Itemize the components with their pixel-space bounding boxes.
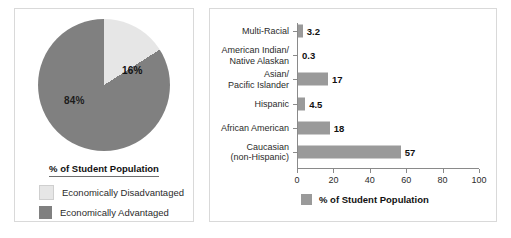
figure-root: 16% 84% % of Student Population Economic…	[0, 0, 511, 238]
pie-chart-title: % of Student Population	[15, 163, 193, 177]
bar-segment	[297, 121, 330, 134]
x-axis-tick-label: 40	[365, 175, 375, 185]
bar-value-label: 4.5	[309, 98, 322, 109]
bar-category-label: African American	[221, 123, 289, 134]
legend-swatch-icon	[39, 206, 52, 219]
bar-value-label: 18	[334, 122, 345, 133]
bar-value-label: 0.3	[302, 50, 315, 61]
x-axis-tick-label: 0	[294, 175, 299, 185]
bar-legend: % of Student Population	[301, 194, 429, 205]
x-axis-tick-icon	[479, 169, 480, 173]
x-axis-tick-icon	[443, 169, 444, 173]
x-axis-line	[297, 168, 479, 169]
bar-chart-panel: Multi-Racial3.2American Indian/Native Al…	[209, 8, 497, 222]
bar-category-label: Multi-Racial	[242, 26, 289, 37]
legend-label-disadvantaged: Economically Disadvantaged	[62, 187, 184, 198]
bar-segment	[297, 97, 305, 110]
x-axis-tick-label: 80	[438, 175, 448, 185]
x-axis-tick-label: 60	[401, 175, 411, 185]
y-axis-line	[297, 23, 298, 168]
bar-category-label: Hispanic	[254, 98, 289, 109]
bar-chart: Multi-Racial3.2American Indian/Native Al…	[210, 9, 496, 221]
legend-item-advantaged: Economically Advantaged	[39, 206, 183, 219]
bar-value-label: 57	[405, 146, 416, 157]
x-axis-tick-icon	[406, 169, 407, 173]
legend-swatch-icon	[301, 194, 312, 205]
x-axis-tick-label: 100	[471, 175, 486, 185]
bar-value-label: 3.2	[307, 26, 320, 37]
bar-segment	[297, 73, 328, 86]
legend-swatch-icon	[39, 185, 54, 200]
pie-slice-label-disadvantaged: 16%	[122, 65, 143, 76]
pie-chart: 16% 84%	[38, 19, 170, 151]
pie-chart-panel: 16% 84% % of Student Population Economic…	[14, 8, 194, 222]
bar-category-label: Caucasian(non-Hispanic)	[230, 141, 289, 162]
bar-value-label: 17	[332, 74, 343, 85]
x-axis-tick-label: 20	[328, 175, 338, 185]
legend-label-advantaged: Economically Advantaged	[60, 207, 169, 218]
x-axis-tick-icon	[370, 169, 371, 173]
pie-disc	[38, 19, 170, 151]
legend-item-disadvantaged: Economically Disadvantaged	[39, 185, 183, 200]
bar-segment	[297, 145, 401, 158]
bar-category-label: American Indian/Native Alaskan	[221, 45, 289, 66]
bar-category-label: Asian/Pacific Islander	[228, 69, 289, 90]
x-axis-tick-icon	[297, 169, 298, 173]
pie-legend: Economically Disadvantaged Economically …	[39, 185, 183, 225]
bar-legend-label: % of Student Population	[319, 194, 429, 205]
x-axis-tick-icon	[333, 169, 334, 173]
pie-chart-title-text: % of Student Population	[49, 163, 159, 177]
pie-slice-label-advantaged: 84%	[64, 95, 85, 106]
